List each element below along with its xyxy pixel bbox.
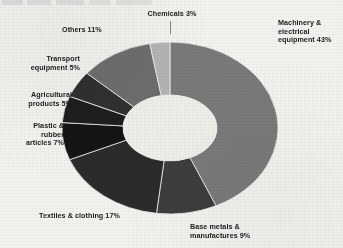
label-agricultural-products: Agricultural products 5% (8, 91, 72, 108)
label-machinery-electrical-equipment: Machinery & electrical equipment 43% (278, 19, 342, 45)
label-transport-equipment: Transport equipment 5% (14, 55, 80, 72)
donut-hole (123, 95, 217, 161)
label-others: Others 11% (62, 26, 128, 35)
label-textiles-clothing: Textiles & clothing 17% (39, 212, 149, 221)
leader-line-chemicals (170, 21, 171, 34)
cropped-title-fragment (2, 0, 152, 5)
label-chemicals: Chemicals 3% (134, 10, 210, 19)
label-plastic-rubber-articles: Plastic & rubber articles 7% (2, 122, 64, 148)
label-base-metals-manufactures: Base metals & manufactures 9% (190, 223, 290, 240)
